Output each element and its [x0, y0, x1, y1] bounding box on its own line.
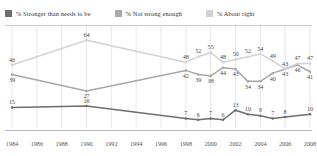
data-label: 38: [208, 77, 214, 84]
data-label: 7: [271, 109, 274, 116]
legend-label-stronger: % Stronger than needs to be: [16, 10, 91, 17]
chart-page: % Stronger than needs to be % Not strong…: [0, 0, 317, 156]
x-axis-tick-label: 2002: [229, 140, 241, 147]
legend-label-about-right: % About right: [217, 10, 255, 17]
data-label: 52: [245, 47, 251, 54]
data-label: 43: [282, 60, 288, 67]
legend-swatch-stronger: [5, 10, 12, 17]
data-label: 6: [222, 111, 225, 118]
x-axis-tick-label: 1996: [155, 140, 167, 147]
data-label: 13: [232, 101, 238, 108]
x-axis-tick-label: 2000: [204, 140, 216, 147]
data-label: 44: [220, 69, 226, 76]
data-label: 55: [208, 43, 214, 50]
chart-gridlines: [12, 26, 310, 128]
data-label: 15: [9, 98, 15, 105]
x-axis-tick-label: 2004: [254, 140, 266, 147]
x-axis-tick-label: 1986: [31, 140, 43, 147]
data-label: 47: [307, 54, 313, 61]
chart-plot-area: 1516767613109781039274239384443343440434…: [0, 26, 317, 130]
data-label: 40: [270, 75, 276, 82]
data-label: 6: [197, 111, 200, 118]
line-chart-svg: 1516767613109781039274239384443343440434…: [0, 26, 317, 130]
x-axis-tick-label: 2006: [279, 140, 291, 147]
data-label: 34: [257, 83, 263, 90]
data-label: 46: [9, 56, 15, 63]
data-label: 43: [232, 70, 238, 77]
data-label: 8: [284, 108, 287, 115]
data-label: 27: [83, 92, 89, 99]
x-axis-tick-label: 1994: [130, 140, 142, 147]
data-label: 48: [220, 53, 226, 60]
x-axis-line: [5, 130, 312, 131]
data-label: 10: [245, 105, 251, 112]
legend-item-not-strong-enough[interactable]: % Not strong enough: [115, 10, 182, 17]
data-label: 50: [232, 50, 238, 57]
data-label: 64: [83, 31, 89, 38]
data-label: 49: [270, 52, 276, 59]
legend-item-stronger[interactable]: % Stronger than needs to be: [5, 10, 91, 17]
data-label: 54: [257, 45, 263, 52]
data-label: 47: [294, 54, 300, 61]
legend-swatch-not-strong-enough: [115, 10, 122, 17]
data-label: 34: [245, 83, 251, 90]
data-label: 9: [259, 106, 262, 113]
data-label: 10: [307, 105, 313, 112]
chart-x-axis: 1984198619881990199219941996199820002002…: [0, 130, 317, 156]
data-label: 39: [195, 76, 201, 83]
data-label: 41: [307, 73, 313, 80]
data-label: 48: [183, 53, 189, 60]
legend-swatch-about-right: [206, 10, 213, 17]
x-axis-tick-label: 1998: [180, 140, 192, 147]
data-label: 52: [195, 47, 201, 54]
x-axis-tick-label: 1988: [55, 140, 67, 147]
x-axis-tick-label: 1984: [6, 140, 18, 147]
x-axis-tick-label: 1992: [105, 140, 117, 147]
data-label: 42: [183, 72, 189, 79]
x-axis-tick-label: 1990: [80, 140, 92, 147]
data-label: 43: [282, 70, 288, 77]
data-label: 7: [184, 109, 187, 116]
x-axis-tick-label: 2008: [304, 140, 316, 147]
legend-item-about-right[interactable]: % About right: [206, 10, 255, 17]
data-label: 39: [9, 76, 15, 83]
data-label: 46: [294, 66, 300, 73]
data-label: 7: [209, 109, 212, 116]
chart-legend: % Stronger than needs to be % Not strong…: [0, 0, 317, 26]
legend-label-not-strong-enough: % Not strong enough: [126, 10, 182, 17]
